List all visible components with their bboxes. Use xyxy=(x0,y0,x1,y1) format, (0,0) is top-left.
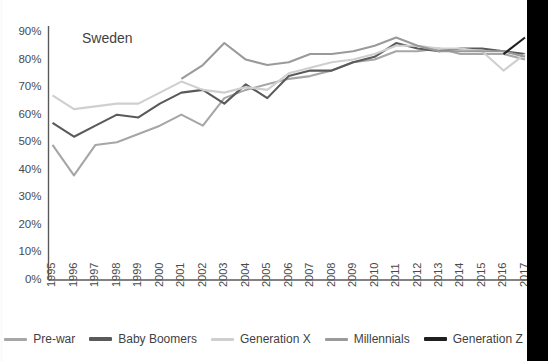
y-tick-label: 0% xyxy=(25,273,42,285)
x-tick-label: 2013 xyxy=(432,263,444,287)
x-tick-label: 1995 xyxy=(45,263,57,287)
legend-label: Millennials xyxy=(354,332,410,346)
y-tick-label: 30% xyxy=(18,190,41,202)
x-axis-tick-labels: 1995199619971998199920002001200220032004… xyxy=(45,263,530,287)
series-lines xyxy=(53,38,526,176)
plot-title: Sweden xyxy=(82,30,133,46)
x-tick-label: 2009 xyxy=(346,263,358,287)
y-tick-label: 40% xyxy=(18,163,41,175)
x-tick-label: 1999 xyxy=(131,263,143,287)
legend-swatch-icon xyxy=(4,338,27,341)
y-tick-label: 20% xyxy=(18,218,41,230)
series-line-pre-war xyxy=(53,49,526,176)
x-tick-label: 2006 xyxy=(282,263,294,287)
legend-label: Baby Boomers xyxy=(118,332,197,346)
x-tick-label: 2008 xyxy=(325,263,337,287)
legend-item-generation-x[interactable]: Generation X xyxy=(211,332,311,346)
x-tick-label: 2010 xyxy=(368,263,380,287)
series-line-generation-z xyxy=(504,38,525,55)
x-tick-label: 2005 xyxy=(260,263,272,287)
x-tick-label: 2001 xyxy=(174,263,186,287)
x-tick-label: 2000 xyxy=(153,263,165,287)
x-tick-label: 2012 xyxy=(411,263,423,287)
legend-swatch-icon xyxy=(325,338,348,341)
x-tick-label: 1998 xyxy=(110,263,122,287)
x-tick-label: 2011 xyxy=(389,263,401,287)
x-tick-label: 2007 xyxy=(303,263,315,287)
y-tick-label: 50% xyxy=(18,135,41,147)
y-axis-tick-labels: 0%10%20%30%40%50%60%70%80%90% xyxy=(18,25,41,285)
x-tick-label: 1996 xyxy=(67,263,79,287)
x-tick-label: 2015 xyxy=(475,263,487,287)
x-tick-label: 2016 xyxy=(496,263,508,287)
legend-swatch-icon xyxy=(89,337,112,341)
legend-item-pre-war[interactable]: Pre-war xyxy=(4,332,75,346)
line-chart-plot: 0%10%20%30%40%50%60%70%80%90% 1995199619… xyxy=(0,0,548,361)
series-line-millennials xyxy=(181,38,525,79)
legend-swatch-icon xyxy=(211,338,234,341)
legend-item-baby-boomers[interactable]: Baby Boomers xyxy=(89,332,197,346)
legend-swatch-icon xyxy=(424,337,447,341)
legend-item-generation-z[interactable]: Generation Z xyxy=(424,332,523,346)
y-tick-label: 90% xyxy=(18,25,41,37)
legend-label: Generation X xyxy=(240,332,311,346)
legend-label: Pre-war xyxy=(33,332,75,346)
y-tick-label: 10% xyxy=(18,245,41,257)
x-tick-label: 2004 xyxy=(239,263,251,287)
x-tick-label: 2014 xyxy=(453,263,465,287)
x-tick-label: 2002 xyxy=(196,263,208,287)
y-tick-label: 70% xyxy=(18,80,41,92)
x-tick-label: 1997 xyxy=(88,263,100,287)
chart-legend: Pre-warBaby BoomersGeneration XMillennia… xyxy=(0,328,527,350)
y-tick-label: 60% xyxy=(18,108,41,120)
legend-label: Generation Z xyxy=(453,332,523,346)
right-crop-band xyxy=(527,0,548,361)
chart-container: 0%10%20%30%40%50%60%70%80%90% 1995199619… xyxy=(0,0,548,361)
y-tick-label: 80% xyxy=(18,53,41,65)
legend-item-millennials[interactable]: Millennials xyxy=(325,332,410,346)
series-line-baby-boomers xyxy=(53,43,526,137)
x-tick-label: 2003 xyxy=(217,263,229,287)
